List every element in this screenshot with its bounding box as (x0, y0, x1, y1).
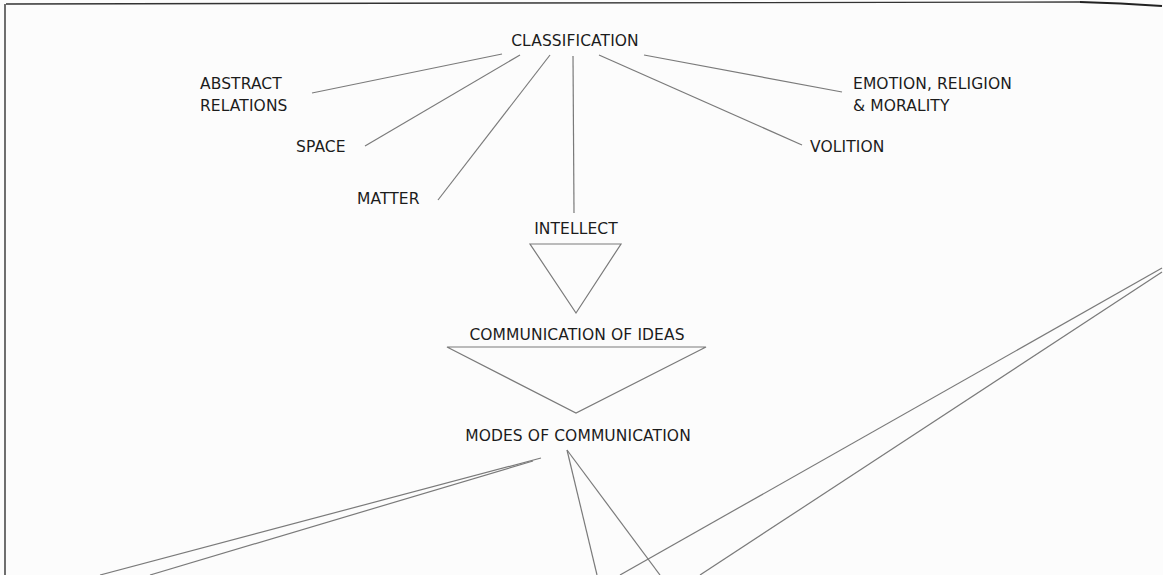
edge-modes-left-2 (150, 461, 533, 575)
node-volition: VOLITION (810, 136, 884, 158)
edge-classification-abstract (312, 54, 502, 93)
node-intellect: INTELLECT (534, 218, 618, 240)
edge-modes-down-1 (567, 450, 597, 575)
node-abstract-relations-line1: ABSTRACT (200, 73, 288, 95)
node-communication-of-ideas: COMMUNICATION OF IDEAS (469, 324, 684, 346)
edge-modes-left-1 (100, 458, 541, 575)
diagram-page: CLASSIFICATION ABSTRACT RELATIONS SPACE … (0, 0, 1163, 575)
node-emotion-line2: & MORALITY (853, 95, 1012, 117)
edge-classification-space (365, 55, 520, 146)
node-space: SPACE (296, 136, 346, 158)
edge-classification-volition (599, 55, 802, 145)
node-abstract-relations: ABSTRACT RELATIONS (200, 73, 288, 117)
ideas-triangle (447, 347, 706, 413)
edge-right-long-2 (700, 272, 1162, 575)
edge-right-long-1 (620, 268, 1162, 575)
node-emotion-line1: EMOTION, RELIGION (853, 73, 1012, 95)
edge-modes-down-2 (567, 450, 660, 575)
node-emotion-religion-morality: EMOTION, RELIGION & MORALITY (853, 73, 1012, 117)
edge-classification-emotion (644, 55, 842, 92)
node-modes-of-communication: MODES OF COMMUNICATION (465, 425, 691, 447)
intellect-triangle (530, 244, 621, 313)
edge-classification-matter (438, 55, 550, 200)
node-matter: MATTER (357, 188, 420, 210)
edge-classification-intellect (573, 56, 574, 213)
node-abstract-relations-line2: RELATIONS (200, 95, 288, 117)
node-classification: CLASSIFICATION (511, 30, 639, 52)
